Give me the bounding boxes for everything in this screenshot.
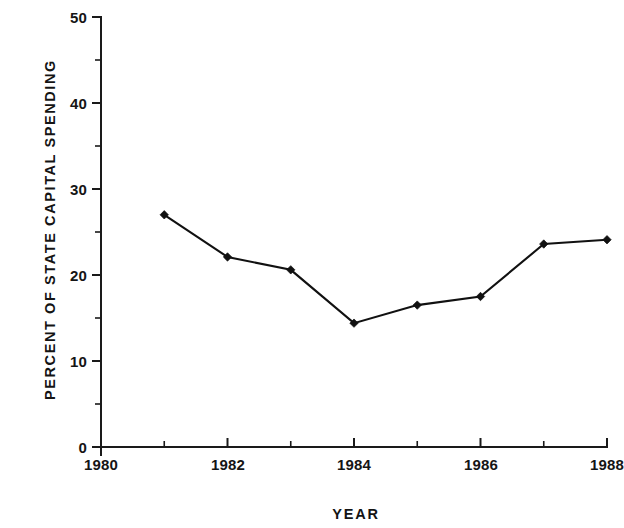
data-series-line	[164, 215, 607, 323]
chart-figure: 50 40 30 20 10 0 1980 1982 1984 1986 198…	[0, 0, 624, 528]
x-tick-label-1982: 1982	[193, 457, 263, 472]
x-tick-label-1986: 1986	[446, 457, 516, 472]
line-chart-plot	[0, 0, 624, 528]
y-tick-label-10: 10	[55, 354, 87, 369]
data-point-1988	[603, 236, 611, 244]
y-tick-label-20: 20	[55, 268, 87, 283]
x-tick-label-1984: 1984	[319, 457, 389, 472]
data-point-markers	[160, 211, 611, 328]
x-tick-label-1980: 1980	[66, 457, 136, 472]
axes-group	[101, 17, 607, 447]
x-tick-label-1988: 1988	[572, 457, 624, 472]
y-tick-label-30: 30	[55, 182, 87, 197]
data-point-1985	[413, 301, 421, 309]
y-axis-ticks	[92, 17, 101, 447]
y-tick-label-40: 40	[55, 96, 87, 111]
y-tick-label-0: 0	[55, 440, 87, 455]
y-tick-label-50: 50	[55, 10, 87, 25]
y-axis-title: PERCENT OF STATE CAPITAL SPENDING	[42, 60, 58, 400]
x-axis-title: YEAR	[0, 506, 624, 522]
